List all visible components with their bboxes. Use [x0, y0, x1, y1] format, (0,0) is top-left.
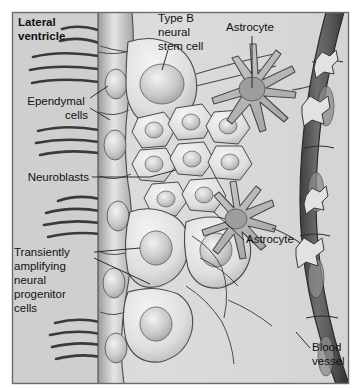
neural-stem-cell-niche-figure: Lateral ventricle Ependymal cells Neurob…	[0, 0, 355, 388]
label-neuroblasts: Neuroblasts	[28, 171, 90, 183]
label-astrocyte-top: Astrocyte	[226, 21, 274, 33]
label-astrocyte-lower: Astrocyte	[246, 233, 294, 245]
